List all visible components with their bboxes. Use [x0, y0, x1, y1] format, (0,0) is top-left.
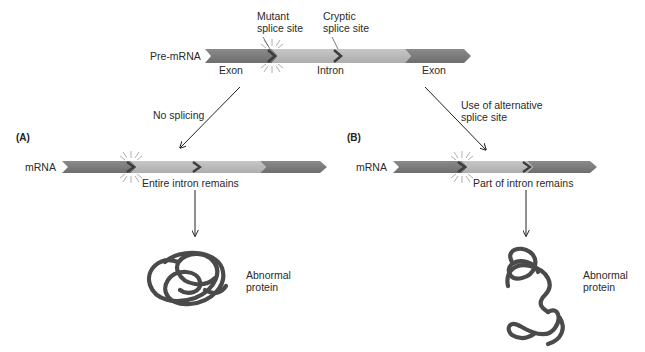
- exon-1-segment: [205, 49, 278, 63]
- entire-intron-caption: Entire intron remains: [142, 177, 239, 189]
- abnormal-protein-a-icon: [149, 253, 226, 304]
- mutant-splice-site-label: Mutant splice site: [257, 10, 303, 34]
- part-intron-caption: Part of intron remains: [473, 177, 573, 189]
- abnormal-protein-b-label: Abnormal protein: [583, 269, 628, 293]
- alternative-splice-label: Use of alternative splice site: [461, 99, 543, 123]
- mrna-b-bar: [393, 161, 597, 173]
- exon-1-label: Exon: [219, 64, 243, 76]
- splicing-diagram: [0, 0, 645, 352]
- panel-a-label: (A): [16, 132, 30, 143]
- abnormal-protein-b-icon: [507, 249, 562, 344]
- exon-2-segment: [527, 161, 597, 173]
- exon-1-segment: [62, 161, 137, 173]
- exon-2-segment: [405, 49, 471, 63]
- exon-2-segment: [260, 161, 327, 173]
- pre-mrna-label: Pre-mRNA: [150, 50, 201, 62]
- pre-mrna-bar: [205, 49, 471, 63]
- exon-2-label: Exon: [422, 64, 446, 76]
- partial-intron-segment: [462, 161, 533, 173]
- panel-b-label: (B): [347, 132, 361, 143]
- cryptic-splice-site-label: Cryptic splice site: [323, 10, 369, 34]
- exon-1-segment: [393, 161, 468, 173]
- mrna-a-label: mRNA: [25, 161, 56, 173]
- mutant-site-pointer: [263, 37, 270, 49]
- intron-label: Intron: [317, 64, 344, 76]
- mrna-b-label: mRNA: [356, 161, 387, 173]
- mrna-a-bar: [62, 161, 327, 173]
- no-splicing-label: No splicing: [153, 109, 204, 121]
- cryptic-site-pointer: [332, 37, 338, 49]
- abnormal-protein-a-label: Abnormal protein: [246, 269, 291, 293]
